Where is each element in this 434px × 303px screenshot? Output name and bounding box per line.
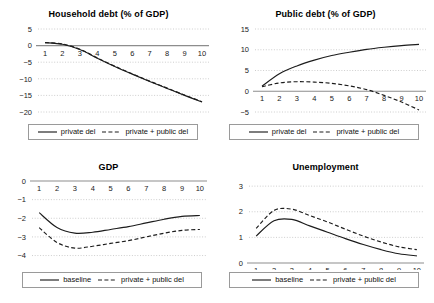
legend-entry-baseline: baseline <box>40 276 91 284</box>
svg-text:−5: −5 <box>23 58 32 67</box>
legend-swatch-solid <box>38 129 57 135</box>
svg-text:2: 2 <box>277 94 281 103</box>
panel-household-debt: Household debt (% of GDP) 50−5−10−15−201… <box>0 0 217 152</box>
svg-text:3: 3 <box>73 184 77 193</box>
legend-label: private + public del <box>121 276 184 284</box>
legend-label: baseline <box>275 276 303 284</box>
svg-text:4: 4 <box>308 266 312 270</box>
svg-text:7: 7 <box>144 184 148 193</box>
svg-text:1: 1 <box>260 94 264 103</box>
svg-text:0: 0 <box>239 259 243 268</box>
svg-text:10: 10 <box>196 184 204 193</box>
legend-label: private + public del <box>333 276 396 284</box>
svg-text:−4: −4 <box>17 251 26 260</box>
plot-gdp: 0−1−2−3−412345678910 <box>0 175 217 270</box>
legend-entry-private-del: private del <box>249 128 307 136</box>
legend-swatch-dashed <box>313 129 332 135</box>
svg-text:7: 7 <box>361 266 365 270</box>
svg-text:−3: −3 <box>17 233 26 242</box>
svg-text:7: 7 <box>365 94 369 103</box>
legend-swatch-dashed <box>98 277 117 283</box>
svg-text:8: 8 <box>379 266 383 270</box>
figure-grid: Household debt (% of GDP) 50−5−10−15−201… <box>0 0 434 303</box>
legend-gdp: baseline private + public del <box>22 272 202 288</box>
legend-swatch-dashed <box>310 277 329 283</box>
svg-text:2: 2 <box>272 266 276 270</box>
plot-public-debt: 151050−512345678910 <box>217 22 434 122</box>
plot-unemployment: 321012345678910 <box>217 175 434 270</box>
svg-text:−1: −1 <box>17 195 26 204</box>
legend-entry-private-public-del: private + public del <box>102 128 188 136</box>
svg-text:0: 0 <box>245 87 249 96</box>
svg-text:4: 4 <box>312 94 316 103</box>
svg-text:6: 6 <box>126 184 130 193</box>
legend-household-debt: private del private + public del <box>28 124 198 140</box>
svg-text:5: 5 <box>245 66 249 75</box>
svg-text:−5: −5 <box>240 108 249 117</box>
svg-text:0: 0 <box>28 41 32 50</box>
panel-title-unemployment: Unemployment <box>217 162 434 172</box>
panel-title-gdp: GDP <box>0 162 217 172</box>
svg-text:10: 10 <box>415 94 423 103</box>
svg-text:5: 5 <box>108 184 112 193</box>
legend-swatch-solid <box>249 129 268 135</box>
legend-label: private + public del <box>125 128 188 136</box>
panel-public-debt: Public debt (% of GDP) 151050−5123456789… <box>217 0 434 152</box>
svg-text:5: 5 <box>28 25 32 34</box>
svg-text:0: 0 <box>22 177 26 186</box>
panel-title-public-debt: Public debt (% of GDP) <box>217 9 434 19</box>
svg-text:2: 2 <box>239 207 243 216</box>
svg-text:5: 5 <box>330 94 334 103</box>
svg-text:−2: −2 <box>17 214 26 223</box>
legend-entry-private-public-del: private + public del <box>313 128 399 136</box>
panel-gdp: GDP 0−1−2−3−412345678910 baseline privat… <box>0 152 217 303</box>
svg-text:3: 3 <box>290 266 294 270</box>
svg-text:6: 6 <box>347 94 351 103</box>
svg-text:10: 10 <box>198 49 206 58</box>
svg-text:7: 7 <box>148 49 152 58</box>
svg-text:1: 1 <box>254 266 258 270</box>
svg-text:10: 10 <box>241 45 249 54</box>
legend-label: baseline <box>63 276 91 284</box>
svg-text:3: 3 <box>295 94 299 103</box>
svg-text:6: 6 <box>343 266 347 270</box>
plot-household-debt: 50−5−10−15−2012345678910 <box>0 22 217 122</box>
svg-text:6: 6 <box>130 49 134 58</box>
panel-title-household-debt: Household debt (% of GDP) <box>0 9 217 19</box>
svg-text:9: 9 <box>180 184 184 193</box>
legend-entry-private-public-del: private + public del <box>310 276 396 284</box>
svg-text:10: 10 <box>413 266 421 270</box>
svg-text:−15: −15 <box>19 91 32 100</box>
legend-swatch-dashed <box>102 129 121 135</box>
svg-text:9: 9 <box>182 49 186 58</box>
legend-entry-baseline: baseline <box>252 276 303 284</box>
svg-text:5: 5 <box>113 49 117 58</box>
svg-text:4: 4 <box>95 49 99 58</box>
svg-text:2: 2 <box>60 49 64 58</box>
svg-text:1: 1 <box>239 233 243 242</box>
svg-text:5: 5 <box>325 266 329 270</box>
legend-label: private del <box>272 128 307 136</box>
svg-text:1: 1 <box>43 49 47 58</box>
svg-text:−10: −10 <box>19 75 32 84</box>
svg-text:8: 8 <box>165 49 169 58</box>
svg-text:−20: −20 <box>19 108 32 117</box>
svg-text:8: 8 <box>162 184 166 193</box>
svg-text:1: 1 <box>37 184 41 193</box>
svg-text:9: 9 <box>397 266 401 270</box>
svg-text:2: 2 <box>55 184 59 193</box>
panel-unemployment: Unemployment 321012345678910 baseline pr… <box>217 152 434 303</box>
svg-text:4: 4 <box>91 184 95 193</box>
svg-text:3: 3 <box>239 182 243 191</box>
legend-entry-private-public-del: private + public del <box>98 276 184 284</box>
legend-entry-private-del: private del <box>38 128 96 136</box>
legend-public-debt: private del private + public del <box>229 124 419 140</box>
legend-label: private del <box>61 128 96 136</box>
legend-swatch-solid <box>252 277 271 283</box>
svg-text:15: 15 <box>241 25 249 34</box>
legend-label: private + public del <box>336 128 399 136</box>
legend-unemployment: baseline private + public del <box>229 272 419 288</box>
legend-swatch-solid <box>40 277 59 283</box>
